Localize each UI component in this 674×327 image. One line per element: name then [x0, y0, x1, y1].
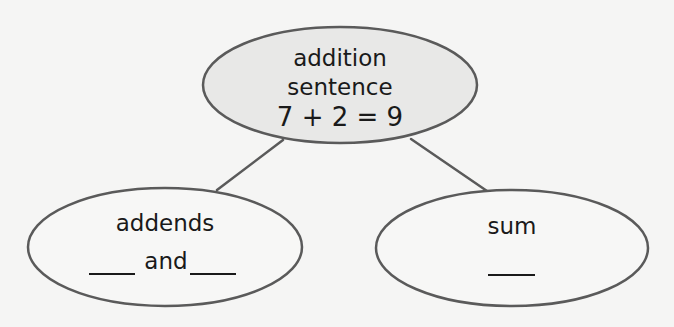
edge-to-sum	[411, 139, 487, 191]
equation: 7 + 2 = 9	[277, 102, 403, 132]
addends-label: addends	[116, 210, 215, 236]
left-ellipse	[28, 188, 302, 306]
node-addition-sentence: addition sentence 7 + 2 = 9	[203, 27, 477, 143]
right-ellipse	[376, 190, 648, 306]
node-sum: sum	[376, 190, 648, 306]
diagram-canvas: addition sentence 7 + 2 = 9 addends and …	[0, 0, 674, 327]
sum-label: sum	[488, 213, 537, 239]
top-line2: sentence	[287, 74, 392, 100]
concept-map: addition sentence 7 + 2 = 9 addends and …	[0, 0, 674, 327]
edge-to-addends	[217, 140, 283, 190]
node-addends: addends and	[28, 188, 302, 306]
top-line1: addition	[293, 45, 387, 71]
addends-connector: and	[144, 248, 187, 274]
